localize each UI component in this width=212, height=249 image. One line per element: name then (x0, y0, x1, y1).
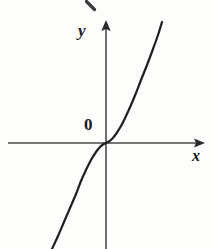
origin-label: 0 (84, 116, 93, 133)
x-axis-label: x (192, 148, 200, 164)
y-axis-label: y (78, 22, 86, 39)
y-axis (101, 20, 110, 249)
coordinate-plot (0, 0, 212, 249)
cubic-function-figure: y x 0 (0, 0, 212, 249)
cubic-curve (52, 22, 162, 249)
clipped-stroke-artifact (87, 2, 95, 10)
